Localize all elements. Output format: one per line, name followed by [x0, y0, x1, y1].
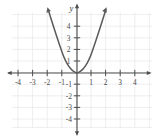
x-tick-label-2: 2: [104, 78, 108, 87]
coordinate-plane-svg: -4 -3 -2 -1 1 2 3 4 4 3 2 1 -1 -2 -3 -4 …: [0, 0, 153, 139]
x-tick-label-4: 4: [133, 78, 137, 87]
y-tick-label-3: 3: [67, 34, 71, 43]
y-tick-label-1: 1: [67, 57, 71, 66]
y-tick-label-2: 2: [67, 45, 71, 54]
y-tick-label-neg-4: -4: [66, 115, 72, 124]
x-tick-label-neg-3: -3: [30, 78, 36, 87]
graph-figure: -4 -3 -2 -1 1 2 3 4 4 3 2 1 -1 -2 -3 -4 …: [0, 0, 153, 139]
x-tick-label-3: 3: [118, 78, 122, 87]
y-axis-label: y: [69, 3, 74, 13]
x-tick-label-neg-1: -1: [59, 78, 65, 87]
x-tick-label-1: 1: [89, 78, 93, 87]
y-tick-label-neg-1: -1: [66, 80, 72, 89]
y-tick-label-neg-3: -3: [66, 103, 72, 112]
y-tick-label-4: 4: [67, 22, 71, 31]
x-tick-label-neg-4: -4: [15, 78, 21, 87]
x-tick-label-neg-2: -2: [44, 78, 50, 87]
y-tick-label-neg-2: -2: [66, 92, 72, 101]
